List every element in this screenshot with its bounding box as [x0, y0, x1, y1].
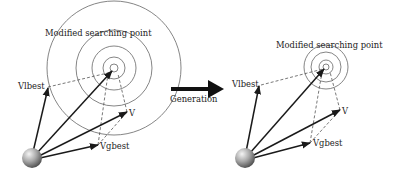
vector-v-arrow [252, 110, 340, 156]
dashed-guides [48, 72, 127, 145]
ring [92, 46, 136, 90]
ring [47, 1, 181, 135]
generation-label: Generation [170, 94, 218, 104]
dashed-guides [261, 69, 340, 143]
transition-arrow-shaft [171, 87, 211, 91]
vector-vlbest-arrow [246, 86, 259, 152]
v-label: V [128, 108, 136, 118]
panel-after: Modified searching point Vlbest V Vgbest [231, 40, 383, 168]
diagram-svg: Modified searching point Vlbest V Vgbest… [0, 0, 398, 178]
particle-sphere-icon [235, 148, 255, 168]
vlbest-label: Vlbest [17, 81, 45, 91]
vlbest-label: Vlbest [231, 79, 259, 89]
ring [311, 52, 341, 82]
modified-searching-point-label: Modified searching point [276, 40, 383, 50]
panel-before: Modified searching point Vlbest V Vgbest [17, 1, 181, 168]
vgbest-label: Vgbest [312, 138, 343, 148]
generation-transition: Generation [170, 80, 224, 104]
search-rings [304, 45, 348, 89]
particle-sphere-icon [22, 148, 42, 168]
v-label: V [341, 106, 349, 116]
pso-generation-diagram: Modified searching point Vlbest V Vgbest… [0, 0, 398, 178]
ring [103, 57, 125, 79]
vgbest-label: Vgbest [99, 141, 130, 151]
ring [76, 30, 152, 106]
search-rings [47, 1, 181, 135]
modified-searching-point-label: Modified searching point [45, 28, 152, 38]
